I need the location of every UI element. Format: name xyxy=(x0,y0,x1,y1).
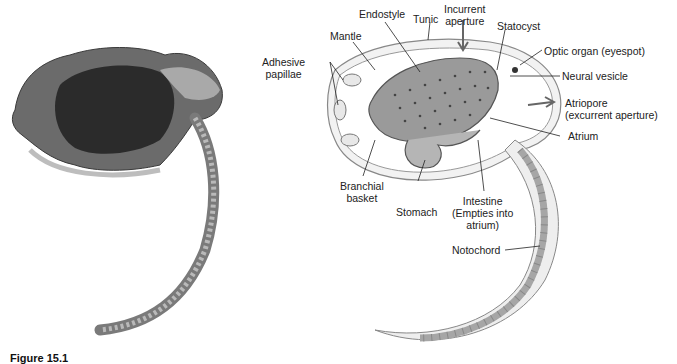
label-atrium: Atrium xyxy=(568,130,598,142)
label-line: Intestine xyxy=(452,195,513,207)
label-branchial-basket: Branchial basket xyxy=(340,180,384,204)
label-intestine: Intestine (Empties into atrium) xyxy=(452,195,513,231)
label-stomach: Stomach xyxy=(396,206,437,218)
label-line: (Empties into xyxy=(452,207,513,219)
label-line: papillae xyxy=(262,68,305,80)
label-incurrent-aperture: Incurrent aperture xyxy=(444,3,485,27)
figure-caption: Figure 15.1 xyxy=(10,352,68,364)
label-line: Branchial xyxy=(340,180,384,192)
label-notochord: Notochord xyxy=(452,244,500,256)
label-adhesive-papillae: Adhesive papillae xyxy=(262,56,305,80)
label-line: Incurrent xyxy=(444,3,485,15)
label-statocyst: Statocyst xyxy=(497,20,540,32)
label-line: basket xyxy=(340,192,384,204)
label-endostyle: Endostyle xyxy=(359,8,405,20)
label-neural-vesicle: Neural vesicle xyxy=(562,70,628,82)
label-line: atrium) xyxy=(452,219,513,231)
larva-photo xyxy=(12,48,222,331)
label-tunic: Tunic xyxy=(413,13,438,25)
label-mantle: Mantle xyxy=(330,30,362,42)
label-line: Adhesive xyxy=(262,56,305,68)
label-line: Atriopore xyxy=(565,97,658,109)
label-optic-organ: Optic organ (eyespot) xyxy=(544,45,645,57)
label-line: (excurrent aperture) xyxy=(565,109,658,121)
label-line: aperture xyxy=(444,15,485,27)
label-atriopore: Atriopore (excurrent aperture) xyxy=(565,97,658,121)
